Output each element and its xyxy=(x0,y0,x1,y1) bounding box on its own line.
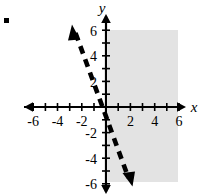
y-tick-label-pos6: 6 xyxy=(90,24,97,39)
x-tick-label-pos6: 6 xyxy=(176,114,183,129)
x-axis-left-arrowhead xyxy=(24,102,33,112)
x-tick-label-pos4: 4 xyxy=(151,114,158,129)
y-axis-variable-label: y xyxy=(97,0,106,16)
x-axis-variable-label: x xyxy=(190,99,198,115)
y-axis-bottom-arrowhead xyxy=(101,185,111,194)
y-tick-label-neg4: -4 xyxy=(85,152,97,167)
x-tick-label-neg4: -4 xyxy=(52,114,64,129)
x-tick-label-neg6: -6 xyxy=(27,114,39,129)
bullet-marker xyxy=(4,18,9,23)
y-tick-label-neg2: -2 xyxy=(85,126,97,141)
line-upper-arrowhead xyxy=(68,25,80,41)
y-tick-label-pos4: 4 xyxy=(90,49,97,64)
y-tick-label-neg6: -6 xyxy=(85,177,97,192)
coordinate-plane-graph: -6 -4 -2 2 4 6 6 4 2 -2 -4 -6 x y xyxy=(0,0,209,195)
x-tick-label-pos2: 2 xyxy=(127,114,134,129)
figure-container: -6 -4 -2 2 4 6 6 4 2 -2 -4 -6 x y xyxy=(0,0,209,195)
